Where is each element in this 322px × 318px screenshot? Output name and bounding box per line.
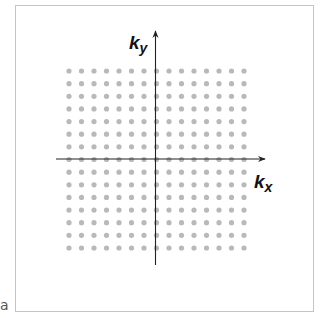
sample-dot <box>241 220 246 225</box>
sample-dot <box>241 81 246 86</box>
sample-dot <box>104 94 109 99</box>
sample-dot <box>141 170 146 175</box>
sample-dot <box>104 68 109 73</box>
sample-dot <box>229 144 234 149</box>
sample-dot <box>66 132 71 137</box>
sample-dot <box>241 144 246 149</box>
sample-dot <box>66 233 71 238</box>
sample-dot <box>116 195 121 200</box>
panel-label: a <box>0 297 9 313</box>
sample-dot <box>241 94 246 99</box>
sample-dot <box>216 182 221 187</box>
sample-dot <box>229 94 234 99</box>
sample-dot <box>154 170 159 175</box>
sample-dot <box>116 81 121 86</box>
sample-dot <box>116 182 121 187</box>
sample-dot <box>66 195 71 200</box>
sample-dot <box>141 119 146 124</box>
sample-dot <box>191 170 196 175</box>
sample-dot <box>129 94 134 99</box>
sample-dot <box>129 68 134 73</box>
sample-dot <box>179 144 184 149</box>
sample-dot <box>179 182 184 187</box>
sample-dot <box>166 68 171 73</box>
sample-dot <box>129 144 134 149</box>
sample-dot <box>79 106 84 111</box>
ky-label: ky <box>129 32 149 56</box>
sample-dot <box>91 233 96 238</box>
sample-dot <box>179 195 184 200</box>
sample-dot <box>179 81 184 86</box>
sample-dot <box>79 182 84 187</box>
sample-dot <box>66 119 71 124</box>
sample-dot <box>179 233 184 238</box>
sample-dot <box>66 81 71 86</box>
sample-dot <box>141 220 146 225</box>
sample-dot <box>179 245 184 250</box>
sample-dot <box>166 233 171 238</box>
sample-dot <box>191 119 196 124</box>
sample-dot <box>204 207 209 212</box>
sample-dot <box>179 106 184 111</box>
sample-dot <box>79 94 84 99</box>
sample-dot <box>116 170 121 175</box>
sample-dot <box>166 182 171 187</box>
sample-dot <box>179 170 184 175</box>
sample-dot <box>66 182 71 187</box>
sample-dot <box>116 220 121 225</box>
sample-dot <box>241 182 246 187</box>
sample-dot <box>129 182 134 187</box>
sample-dot <box>141 245 146 250</box>
sample-dot <box>179 94 184 99</box>
sample-dot <box>204 170 209 175</box>
sample-dot <box>154 94 159 99</box>
sample-dot <box>229 81 234 86</box>
sample-dot <box>154 195 159 200</box>
sample-dot <box>91 68 96 73</box>
sample-dot <box>154 81 159 86</box>
sample-dot <box>104 182 109 187</box>
sample-dot <box>154 144 159 149</box>
sample-dot <box>116 245 121 250</box>
sample-dot <box>116 68 121 73</box>
sample-dot <box>116 233 121 238</box>
sample-dot <box>229 245 234 250</box>
sample-dot <box>179 132 184 137</box>
sample-dot <box>79 144 84 149</box>
sample-dot <box>166 195 171 200</box>
sample-dot <box>216 119 221 124</box>
sample-dot <box>241 245 246 250</box>
sample-dot <box>154 132 159 137</box>
sample-dot <box>229 182 234 187</box>
sample-dot <box>191 106 196 111</box>
sample-dot <box>91 119 96 124</box>
sample-dot <box>79 132 84 137</box>
sample-dot <box>154 220 159 225</box>
sample-dot <box>129 119 134 124</box>
sample-dot <box>204 119 209 124</box>
sample-dot <box>216 144 221 149</box>
sample-dot <box>166 106 171 111</box>
sample-dot <box>79 68 84 73</box>
sample-dot <box>66 94 71 99</box>
sample-dot <box>229 106 234 111</box>
sample-dot <box>216 207 221 212</box>
sample-dot <box>191 207 196 212</box>
sample-dot <box>91 245 96 250</box>
sample-dot <box>66 207 71 212</box>
sample-dot <box>191 81 196 86</box>
sample-dot <box>229 119 234 124</box>
sample-dot <box>104 144 109 149</box>
sample-dot <box>79 245 84 250</box>
sample-dot <box>154 106 159 111</box>
sample-dot <box>66 144 71 149</box>
sample-dot <box>191 245 196 250</box>
sample-dot <box>191 68 196 73</box>
sample-dot <box>104 220 109 225</box>
sample-dot <box>154 245 159 250</box>
sample-dot <box>141 68 146 73</box>
sample-dot <box>129 195 134 200</box>
sample-dot <box>229 170 234 175</box>
sample-dot <box>241 132 246 137</box>
sample-dot <box>154 68 159 73</box>
